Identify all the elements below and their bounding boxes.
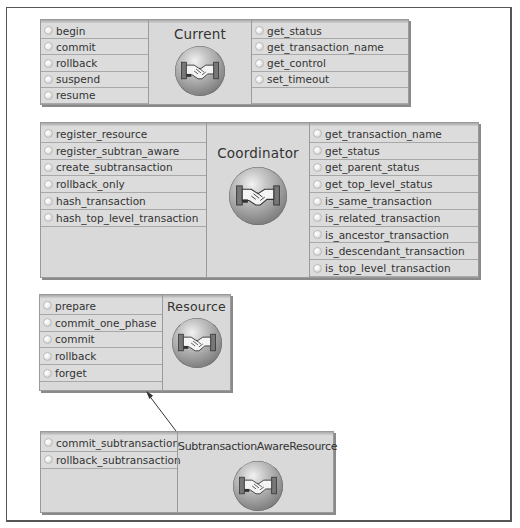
inheritance-arrow (0, 0, 520, 528)
arrowhead-icon (146, 391, 153, 399)
